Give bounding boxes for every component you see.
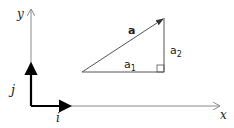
x-axis-label: x <box>220 109 227 121</box>
i-label: i <box>56 112 60 124</box>
right-angle-marker <box>157 65 164 72</box>
a1-label: a1 <box>124 59 136 75</box>
j-label: j <box>11 84 15 96</box>
vector-a <box>82 19 163 72</box>
a2-label: a2 <box>170 45 182 61</box>
y-axis-label: y <box>17 8 24 20</box>
vector-diagram <box>0 0 234 128</box>
vector-a-label: a <box>128 25 135 37</box>
